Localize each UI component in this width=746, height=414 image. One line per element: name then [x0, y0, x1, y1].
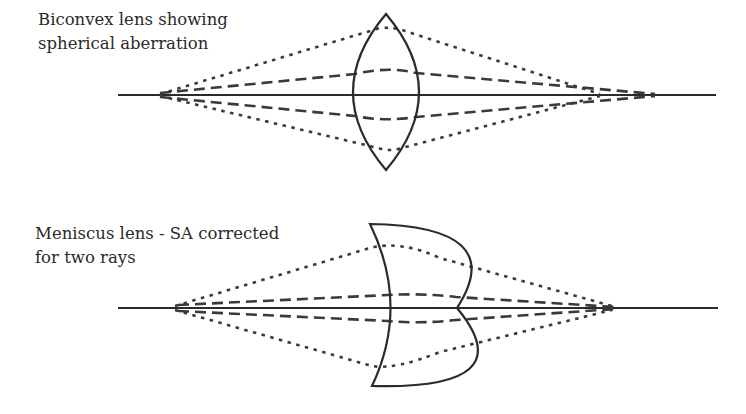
biconvex-marginal-ray-lower [160, 96, 600, 150]
meniscus-marginal-ray-upper [175, 246, 612, 306]
meniscus-panel [118, 224, 718, 386]
meniscus-intermediate-ray-upper [178, 294, 615, 307]
biconvex-intermediate-ray-lower [160, 96, 655, 119]
meniscus-marginal-ray-lower [175, 310, 612, 367]
biconvex-intermediate-ray-upper [160, 70, 655, 94]
meniscus-intermediate-ray-lower [178, 309, 615, 322]
meniscus-lens [370, 224, 478, 386]
biconvex-lens [353, 14, 419, 170]
biconvex-panel [118, 14, 716, 170]
lens-diagram [0, 0, 746, 414]
